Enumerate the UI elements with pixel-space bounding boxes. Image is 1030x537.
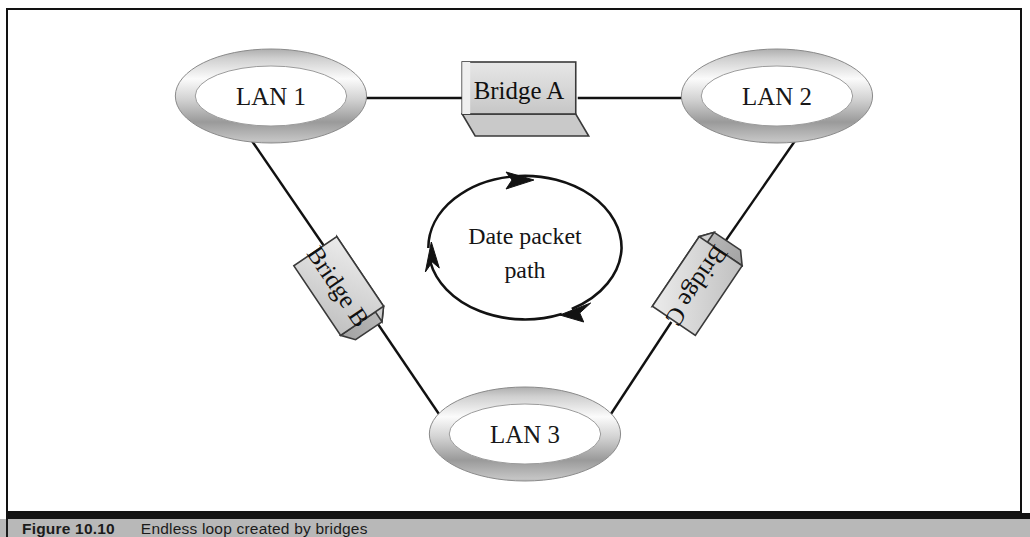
lan2-label: LAN 2 bbox=[742, 83, 812, 110]
node-lan2[interactable]: LAN 2 bbox=[673, 40, 882, 154]
caption-description: Endless loop created by bridges bbox=[141, 520, 368, 537]
node-lan1[interactable]: LAN 1 bbox=[167, 40, 376, 154]
figure-caption: Figure 10.10Endless loop created by brid… bbox=[22, 520, 368, 537]
node-bridge-b[interactable]: Bridge B bbox=[292, 234, 390, 346]
node-lan3[interactable]: LAN 3 bbox=[421, 378, 630, 492]
link-lan2-bridge-c bbox=[719, 141, 795, 250]
data-packet-loop: Date packet path bbox=[425, 172, 621, 322]
figure-panel: LAN 1 LAN 2 LAN 3 bbox=[6, 8, 1022, 513]
loop-label-line2: path bbox=[504, 257, 545, 283]
network-diagram: LAN 1 LAN 2 LAN 3 bbox=[8, 10, 1020, 511]
node-bridge-c[interactable]: Bridge C bbox=[650, 227, 748, 339]
loop-arrow-top-icon bbox=[506, 172, 534, 189]
bridge-a-label: Bridge A bbox=[474, 77, 565, 104]
lan1-label: LAN 1 bbox=[236, 83, 306, 110]
loop-label-line1: Date packet bbox=[468, 223, 582, 249]
link-lan1-bridge-b bbox=[252, 141, 327, 250]
bridge-a-base bbox=[462, 114, 589, 136]
bridge-a-highlight bbox=[462, 62, 470, 114]
caption-number: Figure 10.10 bbox=[22, 520, 115, 537]
loop-arrow-bottom-icon bbox=[560, 303, 591, 322]
lan3-label: LAN 3 bbox=[490, 421, 560, 448]
figure-page: LAN 1 LAN 2 LAN 3 bbox=[0, 0, 1030, 537]
node-bridge-a[interactable]: Bridge A bbox=[462, 62, 589, 136]
caption-band: Figure 10.10Endless loop created by brid… bbox=[0, 519, 1030, 537]
